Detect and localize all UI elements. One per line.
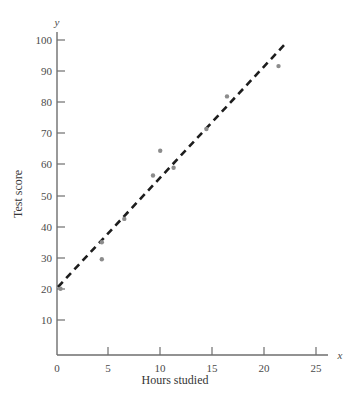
- data-point: [100, 257, 104, 261]
- data-point: [276, 64, 280, 68]
- figure-container: 100 90 80 70 60 50 40 30 20 10 0 5 10 15…: [0, 0, 354, 407]
- y-tick-label-30: 30: [41, 252, 53, 264]
- y-axis-tick-labels: 100 90 80 70 60 50 40 30 20 10: [36, 34, 53, 326]
- data-point: [225, 94, 229, 98]
- y-tick-label-60: 60: [41, 158, 53, 170]
- data-point: [100, 240, 104, 244]
- y-tick-label-10: 10: [41, 314, 53, 326]
- y-tick-label-80: 80: [41, 96, 53, 108]
- x-axis-variable-label: x: [337, 349, 343, 361]
- x-axis-title: Hours studied: [142, 373, 209, 387]
- data-point: [204, 127, 208, 131]
- y-axis-variable-label: y: [54, 16, 60, 28]
- data-point: [171, 166, 175, 170]
- scatter-plot: 100 90 80 70 60 50 40 30 20 10 0 5 10 15…: [0, 0, 354, 407]
- y-tick-label-90: 90: [41, 65, 53, 77]
- y-tick-label-40: 40: [41, 221, 53, 233]
- x-tick-label-0: 0: [54, 362, 60, 374]
- y-tick-label-70: 70: [41, 127, 53, 139]
- y-tick-label-20: 20: [41, 283, 53, 295]
- y-axis-title: Test score: [11, 170, 25, 218]
- x-tick-label-20: 20: [259, 362, 271, 374]
- axes-group: [57, 32, 328, 355]
- data-point: [122, 217, 126, 221]
- x-axis-ticks: [108, 347, 316, 355]
- x-tick-label-5: 5: [105, 362, 111, 374]
- data-point: [151, 173, 155, 177]
- x-tick-label-25: 25: [311, 362, 323, 374]
- y-axis-ticks: [57, 40, 65, 320]
- data-points-group: [58, 64, 280, 291]
- data-point: [158, 149, 162, 153]
- y-tick-label-100: 100: [36, 34, 53, 46]
- data-point: [58, 287, 62, 291]
- y-tick-label-50: 50: [41, 190, 53, 202]
- regression-line: [58, 43, 286, 287]
